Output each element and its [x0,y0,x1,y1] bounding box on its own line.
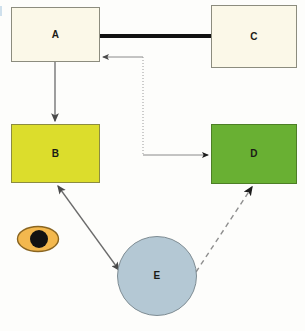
edge-e-d [196,187,252,272]
node-e-label: E [154,271,161,281]
edge-e-b [58,186,119,270]
node-c[interactable]: C [211,5,297,68]
eye-pupil [30,230,48,248]
node-a-label: A [52,30,60,40]
node-b-label: B [52,149,60,159]
node-d[interactable]: D [211,124,297,184]
node-c-label: C [250,32,258,42]
edge-artifact [0,6,2,16]
eye-icon [16,224,60,254]
node-e[interactable]: E [117,236,197,316]
node-d-label: D [250,149,258,159]
node-a[interactable]: A [11,7,100,62]
node-b[interactable]: B [11,124,100,183]
diagram-canvas: A C B D E [0,0,305,331]
